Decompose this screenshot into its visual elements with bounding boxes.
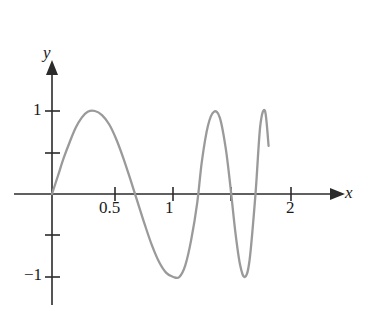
x-axis xyxy=(14,188,345,200)
x-tick-label-1: 1 xyxy=(165,198,174,218)
y-tick-label-minus-1: −1 xyxy=(24,265,42,285)
x-tick-label-0.5: 0.5 xyxy=(99,198,120,218)
x-axis-label: x xyxy=(345,183,353,203)
x-tick-label-2: 2 xyxy=(286,198,295,218)
y-axis-label: y xyxy=(43,43,51,63)
chart-figure xyxy=(0,0,367,315)
x-axis-arrowhead xyxy=(330,188,345,200)
y-tick-label-1: 1 xyxy=(33,100,42,120)
